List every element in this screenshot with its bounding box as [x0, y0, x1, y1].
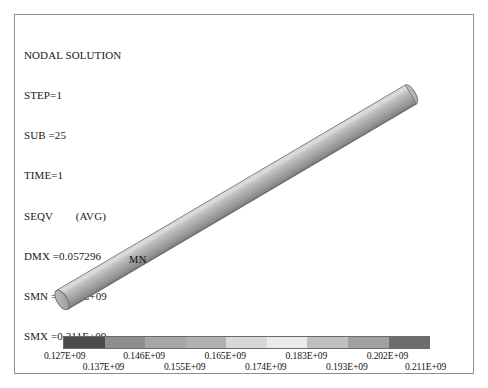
rod-geometry [52, 83, 421, 312]
model-viewport[interactable] [14, 14, 474, 326]
legend-tick-label-1: 0.137E+09 [83, 361, 125, 372]
contour-legend-bar [63, 336, 430, 349]
legend-band-0 [64, 337, 105, 348]
legend-tick-label-7: 0.193E+09 [326, 361, 368, 372]
legend-tick-label-2: 0.146E+09 [123, 350, 165, 361]
legend-band-1 [105, 337, 146, 348]
legend-tick-label-3: 0.155E+09 [164, 361, 206, 372]
legend-band-7 [348, 337, 389, 348]
legend-band-3 [186, 337, 227, 348]
legend-band-2 [145, 337, 186, 348]
legend-band-4 [226, 337, 267, 348]
rod-model [14, 14, 474, 326]
legend-band-8 [389, 337, 430, 348]
legend-tick-label-4: 0.165E+09 [204, 350, 246, 361]
contour-legend-labels: 0.127E+090.137E+090.146E+090.155E+090.16… [14, 350, 474, 374]
legend-band-5 [267, 337, 308, 348]
legend-tick-label-9: 0.211E+09 [405, 361, 446, 372]
legend-tick-label-5: 0.174E+09 [245, 361, 287, 372]
legend-tick-label-8: 0.202E+09 [367, 350, 409, 361]
legend-tick-label-0: 0.127E+09 [44, 350, 86, 361]
legend-tick-label-6: 0.183E+09 [286, 350, 328, 361]
legend-band-6 [307, 337, 348, 348]
min-node-label: MN [129, 254, 147, 265]
